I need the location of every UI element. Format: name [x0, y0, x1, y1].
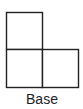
diagram-label: Base — [0, 91, 83, 107]
grid-cell-bottom-left — [7, 50, 43, 88]
base-shape-diagram: Base — [0, 0, 83, 109]
grid-cell-bottom-right — [43, 50, 79, 88]
grid-cell-top-left — [7, 13, 43, 50]
